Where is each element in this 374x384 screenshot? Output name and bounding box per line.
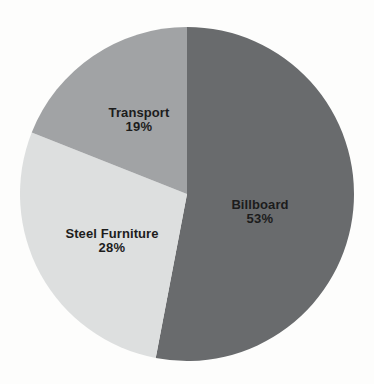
slice-name: Steel Furniture — [65, 227, 158, 241]
pie-chart-figure: Billboard 53% Steel Furniture 28% Transp… — [0, 0, 374, 384]
label-billboard: Billboard 53% — [231, 198, 288, 225]
slice-name: Transport — [109, 106, 170, 120]
label-transport: Transport 19% — [109, 106, 170, 133]
slice-name: Billboard — [231, 198, 288, 212]
slice-percent: 28% — [65, 240, 158, 254]
slice-percent: 19% — [109, 119, 170, 133]
slice-percent: 53% — [231, 211, 288, 225]
label-steel-furniture: Steel Furniture 28% — [65, 227, 158, 254]
pie-chart — [0, 0, 374, 384]
